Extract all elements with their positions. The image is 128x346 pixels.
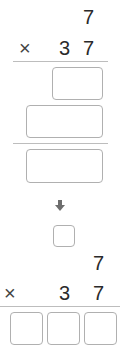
top-rule-2 — [13, 143, 108, 144]
answer-tens-input[interactable] — [47, 312, 80, 345]
top-multiplicand: 7 — [83, 7, 94, 27]
top-rule-1 — [13, 61, 108, 62]
top-multiplier-ones: 7 — [83, 38, 94, 58]
bottom-multiply-sign: × — [4, 283, 16, 303]
top-multiply-sign: × — [19, 38, 31, 58]
answer-ones-input[interactable] — [84, 312, 117, 345]
partial-product-1-input[interactable] — [52, 67, 103, 100]
down-arrow-icon — [55, 200, 65, 211]
partial-product-2-input[interactable] — [26, 105, 103, 138]
bottom-multiplier-tens: 3 — [59, 283, 70, 303]
bottom-multiplicand: 7 — [93, 253, 104, 273]
bottom-multiplier-ones: 7 — [93, 283, 104, 303]
answer-hundreds-input[interactable] — [10, 312, 43, 345]
carry-input[interactable] — [53, 225, 75, 247]
top-multiplier-tens: 3 — [59, 38, 70, 58]
final-product-input[interactable] — [26, 149, 103, 183]
bottom-rule — [0, 306, 120, 307]
